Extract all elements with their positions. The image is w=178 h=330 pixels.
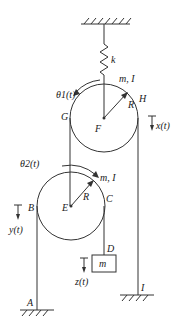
point-B: B <box>28 202 34 213</box>
y-displacement-arrow <box>14 205 22 220</box>
y-label: y(t) <box>8 224 24 236</box>
upper-pulley-center: F <box>94 123 102 134</box>
pulley-diagram: k m, I θ1(t) R F H G x(t) θ2(t) m, I R E… <box>0 0 178 330</box>
point-C: C <box>106 193 113 204</box>
upper-pulley <box>70 80 138 152</box>
point-G: G <box>61 111 68 122</box>
ground-A <box>20 310 54 316</box>
z-displacement-arrow <box>80 258 88 273</box>
point-H: H <box>138 93 147 104</box>
point-A: A <box>26 297 34 308</box>
upper-pulley-radius: R <box>127 99 134 110</box>
theta2-label: θ2(t) <box>20 158 40 170</box>
z-label: z(t) <box>74 276 89 288</box>
mass-label: m <box>99 258 106 269</box>
x-displacement-arrow <box>148 116 156 131</box>
top-ground <box>81 18 131 24</box>
spring <box>100 24 108 84</box>
spring-label: k <box>111 54 116 65</box>
point-D: D <box>106 243 115 254</box>
lower-pulley-props: m, I <box>100 172 116 183</box>
x-label: x(t) <box>155 120 171 132</box>
upper-pulley-props: m, I <box>119 73 135 84</box>
theta1-label: θ1(t) <box>56 89 76 101</box>
point-I: I <box>140 282 145 293</box>
lower-pulley <box>37 165 105 240</box>
ground-I <box>120 295 154 301</box>
lower-pulley-center: E <box>61 202 68 213</box>
lower-pulley-radius: R <box>82 191 89 202</box>
